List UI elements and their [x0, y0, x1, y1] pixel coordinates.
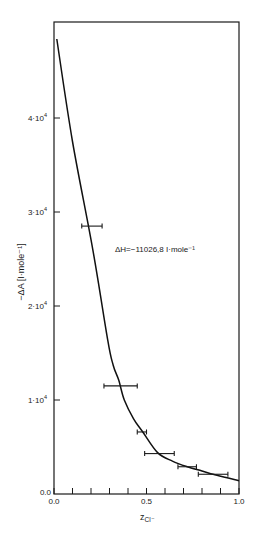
y-tick-exponent: 4	[44, 206, 47, 212]
y-tick-label: 4·104	[28, 112, 47, 123]
data-point-errorbar	[145, 451, 175, 456]
x-tick-label: 1.0	[233, 497, 245, 506]
x-axis-ticks: 0.00.51.0	[48, 488, 245, 506]
annotation: ΔH=−11026,8 I·mole⁻¹	[115, 245, 195, 254]
curve-layer	[57, 39, 239, 481]
x-tick-label: 0.0	[48, 497, 60, 506]
y-axis-label: −ΔA [I·mole⁻¹]	[16, 243, 26, 300]
y-tick-label: 3·104	[28, 206, 47, 217]
data-point-errorbar	[198, 472, 228, 477]
y-tick-exponent: 4	[44, 300, 47, 306]
chart: 0.00.51.0 0.01·1042·1043·1044·104 ΔH=−11…	[0, 0, 258, 541]
plot-frame	[54, 22, 239, 494]
y-tick-exponent: 4	[44, 394, 47, 400]
y-tick-label: 0.0	[40, 488, 52, 497]
y-tick-label: 1·104	[28, 394, 47, 405]
data-point-errorbar	[82, 224, 102, 229]
y-axis-ticks: 0.01·1042·1043·1044·104	[28, 112, 60, 497]
points-layer	[82, 224, 228, 477]
y-tick-exponent: 4	[44, 112, 47, 118]
y-tick-label: 2·104	[28, 300, 47, 311]
x-axis-label-sub: Cl⁻	[145, 516, 155, 523]
x-axis-label: zCl⁻	[140, 512, 155, 523]
x-tick-label: 0.5	[141, 497, 153, 506]
fitted-curve-line	[57, 39, 239, 481]
